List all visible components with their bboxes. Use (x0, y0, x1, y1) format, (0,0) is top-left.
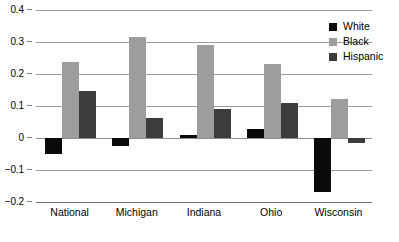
bar-michigan-hispanic (146, 118, 163, 138)
legend: White Black Hispanic (329, 19, 383, 64)
bar-ohio-hispanic (281, 103, 298, 138)
gridline-neg0_2 (36, 202, 372, 203)
bar-national-hispanic (79, 91, 96, 138)
legend-label-white: White (343, 19, 370, 34)
bar-chart: 0.40.30.20.10−0.1−0.2 NationalMichiganIn… (0, 0, 399, 242)
bar-wisconsin-hispanic (348, 138, 365, 143)
bar-michigan-white (112, 138, 129, 146)
y-tick-label: 0.4 (0, 5, 32, 15)
bar-indiana-white (180, 135, 197, 138)
legend-label-hispanic: Hispanic (343, 49, 383, 64)
bar-group (180, 10, 231, 202)
y-tick-label: 0.2 (0, 69, 32, 79)
legend-item-black: Black (329, 34, 383, 49)
bar-indiana-hispanic (214, 109, 231, 138)
bar-michigan-black (129, 37, 146, 138)
y-tick-label: −0.1 (0, 165, 32, 175)
bar-group (45, 10, 96, 202)
bar-ohio-white (247, 129, 264, 138)
legend-label-black: Black (343, 34, 369, 49)
legend-item-white: White (329, 19, 383, 34)
plot-area (36, 10, 372, 202)
bar-indiana-black (197, 45, 214, 138)
x-axis-label-indiana: Indiana (170, 206, 237, 218)
y-tick-label: 0.3 (0, 37, 32, 47)
legend-swatch-hispanic-icon (329, 53, 337, 61)
bar-ohio-black (264, 64, 281, 138)
x-axis-label-ohio: Ohio (238, 206, 305, 218)
legend-swatch-white-icon (329, 23, 337, 31)
legend-item-hispanic: Hispanic (329, 49, 383, 64)
bar-national-black (62, 62, 79, 138)
legend-swatch-black-icon (329, 38, 337, 46)
bar-wisconsin-black (331, 99, 348, 138)
y-tick-label: 0 (0, 133, 32, 143)
bar-group (112, 10, 163, 202)
bar-national-white (45, 138, 62, 154)
y-tick-label: 0.1 (0, 101, 32, 111)
bar-wisconsin-white (314, 138, 331, 192)
x-axis-label-wisconsin: Wisconsin (305, 206, 372, 218)
x-axis-label-national: National (36, 206, 103, 218)
y-tick-label: −0.2 (0, 197, 32, 207)
x-axis-label-michigan: Michigan (103, 206, 170, 218)
bar-group (247, 10, 298, 202)
